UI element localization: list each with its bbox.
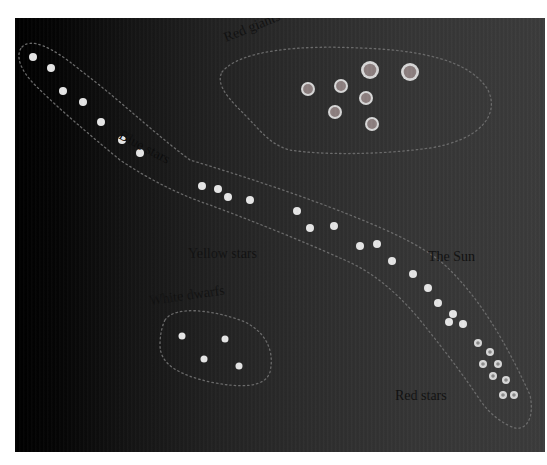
star-dot bbox=[29, 53, 37, 61]
red-giant-core bbox=[336, 81, 346, 91]
main-sequence-region bbox=[19, 43, 531, 428]
star-dot bbox=[373, 240, 381, 248]
star-dot bbox=[445, 318, 453, 326]
red-giants-region bbox=[220, 47, 491, 153]
red-giant-core bbox=[330, 107, 340, 117]
yellow-stars-label: Yellow stars bbox=[188, 246, 257, 261]
red-star-core bbox=[504, 378, 508, 382]
blue-stars-label: Blue stars bbox=[117, 127, 173, 166]
star-dot bbox=[330, 222, 338, 230]
star-dot bbox=[246, 196, 254, 204]
red-stars-label: Red stars bbox=[395, 388, 447, 403]
diagram-panel: Blue stars Red giants Yellow stars The S… bbox=[15, 18, 545, 452]
red-star-core bbox=[501, 393, 505, 397]
star-dot bbox=[459, 320, 467, 328]
white-dwarf-dot bbox=[201, 356, 208, 363]
white-dwarfs-region bbox=[160, 311, 271, 386]
red-giant-core bbox=[361, 93, 371, 103]
red-giant-core bbox=[303, 84, 313, 94]
red-giant-core bbox=[364, 64, 377, 77]
red-giant-core bbox=[404, 66, 417, 79]
star-dot bbox=[79, 98, 87, 106]
star-dot bbox=[293, 207, 301, 215]
white-dwarf-dot bbox=[236, 363, 243, 370]
red-star-core bbox=[491, 374, 495, 378]
main-sequence-stars bbox=[29, 53, 467, 328]
red-star-core bbox=[481, 362, 485, 366]
star-diagram-svg: Blue stars Red giants Yellow stars The S… bbox=[15, 18, 545, 452]
red-star-core bbox=[496, 362, 500, 366]
red-star-core bbox=[512, 393, 516, 397]
star-dot bbox=[59, 87, 67, 95]
star-dot bbox=[356, 242, 364, 250]
star-dot bbox=[434, 299, 442, 307]
star-dot bbox=[47, 64, 55, 72]
red-giant-stars bbox=[301, 61, 419, 131]
star-dot bbox=[306, 224, 314, 232]
star-dot bbox=[409, 270, 417, 278]
white-dwarf-dot bbox=[179, 333, 186, 340]
the-sun-label: The Sun bbox=[428, 249, 475, 264]
white-dwarfs-label: White dwarfs bbox=[148, 283, 225, 308]
red-star-core bbox=[476, 341, 480, 345]
red-giants-label: Red giants bbox=[222, 18, 283, 45]
star-dot bbox=[449, 310, 457, 318]
star-dot bbox=[214, 185, 222, 193]
red-star-core bbox=[488, 350, 492, 354]
white-dwarf-dot bbox=[222, 336, 229, 343]
star-dot bbox=[97, 118, 105, 126]
red-stars bbox=[474, 339, 518, 399]
white-dwarf-stars bbox=[179, 333, 243, 370]
star-dot bbox=[198, 182, 206, 190]
red-giant-core bbox=[367, 119, 377, 129]
star-dot bbox=[224, 193, 232, 201]
star-dot bbox=[388, 257, 396, 265]
star-dot bbox=[424, 284, 432, 292]
